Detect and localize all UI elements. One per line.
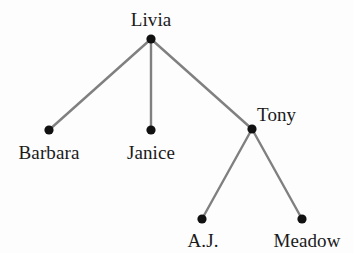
family-tree-diagram: LiviaBarbaraJaniceTonyA.J.Meadow: [0, 0, 354, 253]
edges-group: [49, 39, 302, 219]
node-label-livia: Livia: [131, 10, 172, 29]
node-label-barbara: Barbara: [19, 143, 80, 162]
edge-tony-meadow: [252, 129, 302, 219]
edge-livia-barbara: [49, 39, 151, 130]
node-aj[interactable]: [197, 214, 206, 223]
node-label-tony: Tony: [257, 105, 296, 124]
node-label-janice: Janice: [127, 143, 175, 162]
node-label-aj: A.J.: [187, 231, 218, 250]
edge-tony-aj: [202, 129, 252, 219]
edge-livia-tony: [151, 39, 252, 129]
node-label-meadow: Meadow: [273, 231, 340, 250]
node-janice[interactable]: [146, 125, 155, 134]
nodes-group: [44, 34, 306, 223]
node-livia[interactable]: [146, 34, 155, 43]
node-barbara[interactable]: [44, 125, 53, 134]
tree-graphics: [0, 0, 354, 253]
node-tony[interactable]: [247, 124, 256, 133]
node-meadow[interactable]: [297, 214, 306, 223]
